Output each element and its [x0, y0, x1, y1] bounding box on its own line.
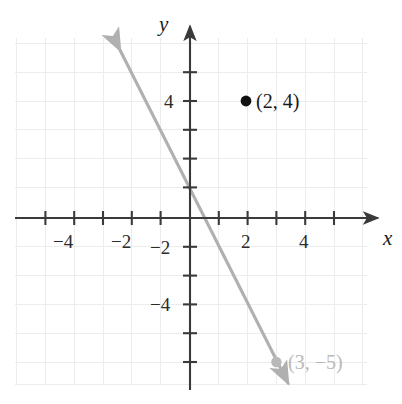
- y-tick-label-neg4: −4: [150, 295, 170, 314]
- data-point-2-4: [241, 96, 252, 107]
- y-tick-label-neg2: −2: [150, 238, 170, 257]
- x-axis-label: x: [383, 228, 392, 249]
- x-tick-label-neg2: −2: [111, 232, 131, 251]
- y-tick-label-4: 4: [164, 92, 174, 111]
- coordinate-plane-svg: [0, 0, 402, 404]
- data-point-3-neg5: [271, 357, 281, 367]
- x-axis: [15, 211, 378, 225]
- y-axis: [183, 26, 197, 390]
- graph-figure: −4 −2 2 4 4 −2 −4 y x (2, 4) (3, −5): [0, 0, 402, 404]
- x-tick-label-neg4: −4: [53, 232, 73, 251]
- annotation-point-2-4: (2, 4): [256, 91, 299, 111]
- x-tick-label-2: 2: [241, 232, 251, 251]
- x-tick-label-4: 4: [299, 232, 309, 251]
- annotation-point-3-neg5: (3, −5): [288, 352, 343, 372]
- y-axis-label: y: [159, 14, 168, 35]
